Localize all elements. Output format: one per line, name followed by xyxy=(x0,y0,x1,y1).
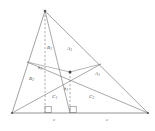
altitude-label-h1: h1 xyxy=(64,87,68,91)
right-angle-marker-left xyxy=(45,107,51,113)
triangle-outline xyxy=(12,11,148,113)
region-label-A1: A1 xyxy=(95,71,100,76)
vertex-markers xyxy=(11,10,149,114)
segment-left-to-interior xyxy=(27,62,70,72)
region-label-C1: C1 xyxy=(52,94,57,99)
region-label-B2: B2 xyxy=(29,76,34,81)
geometry-canvas xyxy=(0,0,155,131)
base-label-c-left: c xyxy=(53,118,55,123)
geometry-figure: B1 A2 B2 A1 C1 C2 h2 h1 c c xyxy=(0,0,155,131)
base-label-c-right: c xyxy=(106,118,108,123)
region-label-B1: B1 xyxy=(47,45,52,50)
cevian-from-apex xyxy=(45,11,70,113)
interior-intersection-dot xyxy=(69,71,72,74)
right-vertex-dot xyxy=(147,112,149,114)
region-label-C2: C2 xyxy=(89,94,94,99)
triangle-right-side xyxy=(45,11,148,113)
right-angle-markers xyxy=(45,107,76,113)
apex-vertex-dot xyxy=(44,10,47,13)
region-label-A2: A2 xyxy=(67,46,72,51)
left-vertex-dot xyxy=(11,112,13,114)
cevian-lines xyxy=(12,11,148,113)
right-angle-marker-center xyxy=(70,107,76,113)
altitude-label-h2: h2 xyxy=(38,66,42,70)
